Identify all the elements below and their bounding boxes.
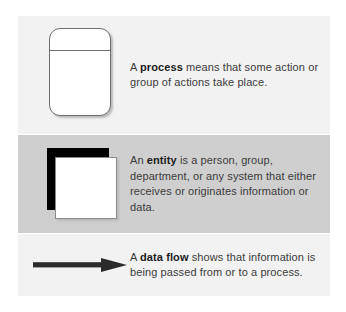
dfd-symbol-legend: A process means that some action or grou… [0,0,346,312]
legend-row-entity: An entity is a person, group, department… [18,135,330,233]
entity-front-square [55,157,117,219]
legend-row-process: A process means that some action or grou… [18,16,330,134]
process-symbol [49,28,111,116]
entity-term: entity [147,154,177,166]
entity-symbol [47,148,123,224]
data-flow-symbol-cell [18,234,130,296]
process-symbol-cell [18,16,130,134]
data-flow-term: data flow [140,251,189,263]
data-flow-text-lead: A [130,251,140,263]
data-flow-description: A data flow shows that information is be… [130,250,330,281]
entity-description: An entity is a person, group, department… [130,153,330,215]
process-description: A process means that some action or grou… [130,60,330,91]
data-flow-arrow-icon [33,256,127,274]
process-term: process [140,61,183,73]
process-divider-line [50,50,110,51]
process-text-lead: A [130,61,140,73]
legend-row-data-flow: A data flow shows that information is be… [18,234,330,296]
entity-symbol-cell [18,135,130,233]
entity-text-lead: An [130,154,147,166]
